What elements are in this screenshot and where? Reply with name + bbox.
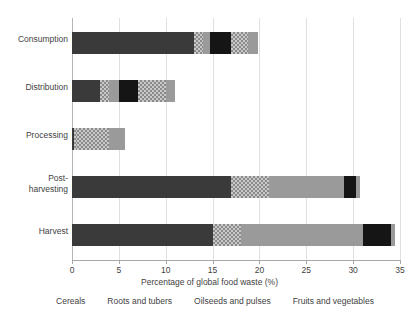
x-axis-title: Percentage of global food waste (%) xyxy=(0,277,419,287)
x-tick-label-10: 10 xyxy=(151,265,181,275)
bar-segment-oilseeds-and-pulses xyxy=(109,128,125,150)
bar-segment-fruits-and-vegetables xyxy=(363,224,391,246)
bar-post-harvesting[interactable] xyxy=(72,176,360,198)
legend-label-roots-and-tubers: Roots and tubers xyxy=(107,296,172,306)
bar-segment-roots-and-tubers xyxy=(213,224,241,246)
x-tick-label-25: 25 xyxy=(291,265,321,275)
bar-segment-roots-and-tubers-b xyxy=(231,32,248,54)
x-tick-label-15: 15 xyxy=(198,265,228,275)
legend-item-fruits-and-vegetables[interactable]: Fruits and vegetables xyxy=(282,296,374,306)
x-tick-mark-35 xyxy=(400,260,401,264)
bar-segment-roots-and-tubers xyxy=(100,80,109,102)
x-tick-label-5: 5 xyxy=(104,265,134,275)
y-tick-post-harvesting-line1: Post- xyxy=(2,173,68,184)
y-axis-labels: Consumption Distribution Processing Post… xyxy=(0,18,68,260)
x-tick-label-30: 30 xyxy=(338,265,368,275)
bar-chart: Consumption Distribution Processing Post… xyxy=(0,0,419,321)
bar-segment-cereals xyxy=(72,80,100,102)
bar-segment-roots-and-tubers xyxy=(194,32,203,54)
bar-segment-oilseeds-and-pulses-b xyxy=(356,176,360,198)
x-tick-label-20: 20 xyxy=(244,265,274,275)
x-tick-mark-0 xyxy=(72,260,73,264)
bar-segment-cereals xyxy=(72,176,231,198)
y-tick-consumption: Consumption xyxy=(2,34,68,45)
bar-segment-oilseeds-and-pulses-b xyxy=(166,80,175,102)
x-tick-label-35: 35 xyxy=(385,265,415,275)
bar-processing[interactable] xyxy=(72,128,125,150)
legend-label-cereals: Cereals xyxy=(56,296,85,306)
bar-segment-oilseeds-and-pulses-b xyxy=(248,32,258,54)
legend-swatch-fruits-and-vegetables-icon xyxy=(282,298,289,305)
x-tick-mark-15 xyxy=(213,260,214,264)
bar-segment-roots-and-tubers xyxy=(231,176,268,198)
y-tick-harvest: Harvest xyxy=(2,226,68,237)
gridline-35 xyxy=(400,18,401,260)
legend-item-roots-and-tubers[interactable]: Roots and tubers xyxy=(96,296,172,306)
plot-area xyxy=(72,18,400,260)
x-axis-line xyxy=(72,260,400,261)
bar-segment-fruits-and-vegetables xyxy=(210,32,232,54)
x-tick-mark-10 xyxy=(166,260,167,264)
legend-label-oilseeds-and-pulses: Oilseeds and pulses xyxy=(194,296,271,306)
y-tick-distribution: Distribution xyxy=(2,82,68,93)
bar-harvest[interactable] xyxy=(72,224,395,246)
bar-segment-roots-and-tubers-b xyxy=(138,80,166,102)
x-tick-mark-30 xyxy=(353,260,354,264)
bar-segment-oilseeds-and-pulses xyxy=(241,224,363,246)
x-tick-label-0: 0 xyxy=(57,265,87,275)
bar-distribution[interactable] xyxy=(72,80,175,102)
y-tick-processing: Processing xyxy=(2,130,68,141)
bar-segment-cereals xyxy=(72,32,194,54)
legend-swatch-roots-and-tubers-icon xyxy=(96,298,103,305)
bar-segment-oilseeds-and-pulses-b xyxy=(391,224,396,246)
y-tick-post-harvesting-line2: harvesting xyxy=(2,184,68,195)
bar-segment-fruits-and-vegetables xyxy=(119,80,138,102)
legend-label-fruits-and-vegetables: Fruits and vegetables xyxy=(293,296,374,306)
bar-segment-fruits-and-vegetables xyxy=(344,176,356,198)
legend-item-oilseeds-and-pulses[interactable]: Oilseeds and pulses xyxy=(183,296,271,306)
bar-segment-cereals xyxy=(72,224,213,246)
x-tick-mark-5 xyxy=(119,260,120,264)
bar-segment-roots-and-tubers-b xyxy=(77,128,110,150)
legend-swatch-oilseeds-and-pulses-icon xyxy=(183,298,190,305)
x-tick-mark-25 xyxy=(306,260,307,264)
legend-item-cereals[interactable]: Cereals xyxy=(45,296,85,306)
x-tick-mark-20 xyxy=(259,260,260,264)
bar-segment-oilseeds-and-pulses xyxy=(269,176,344,198)
bar-segment-oilseeds-and-pulses xyxy=(109,80,118,102)
legend-swatch-cereals-icon xyxy=(45,298,52,305)
chart-legend: Cereals Roots and tubers Oilseeds and pu… xyxy=(0,296,419,306)
bar-consumption[interactable] xyxy=(72,32,258,54)
